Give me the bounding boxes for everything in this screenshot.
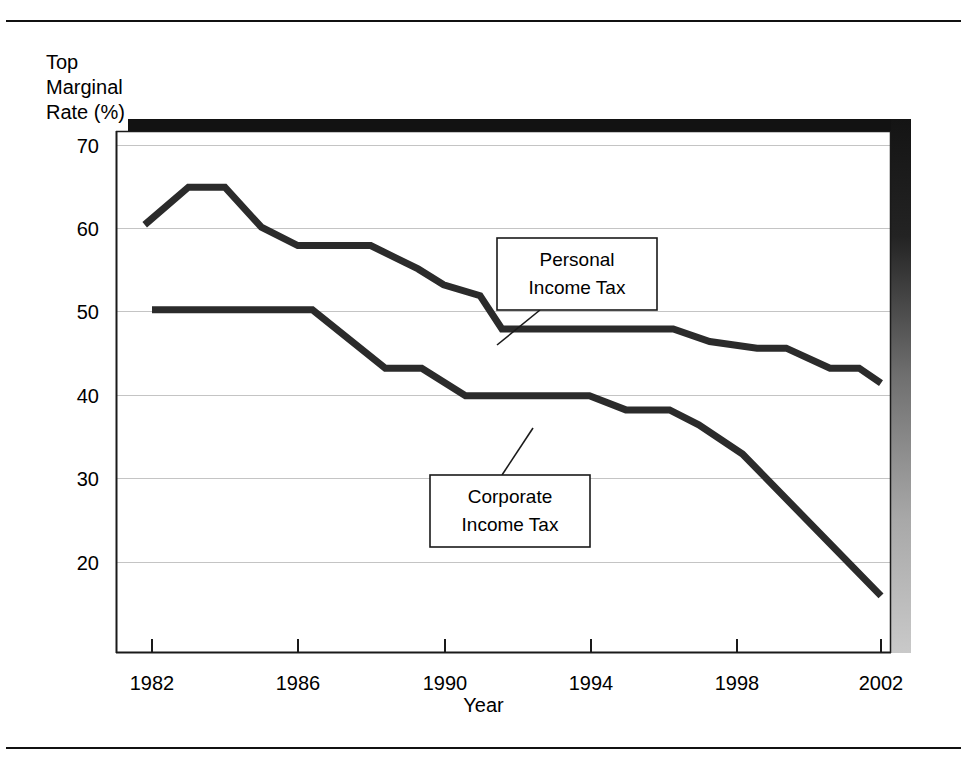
figure-page: Top Marginal Rate (%) [0,0,967,761]
annotation-label-personal-line2: Income Tax [529,277,626,298]
chart-figure: Top Marginal Rate (%) [0,22,967,746]
y-tick-label: 70 [77,135,99,157]
x-tick-label: 1986 [276,672,321,694]
y-tick-label: 50 [77,301,99,323]
y-tick-label: 20 [77,552,99,574]
plot-background [116,131,891,653]
x-axis-title: Year [0,694,967,717]
x-tick-labels: 1982 1986 1990 1994 1998 2002 [130,672,904,694]
annotation-label-corporate-line1: Corporate [468,486,553,507]
annotation-label-personal-line1: Personal [540,249,615,270]
x-tick-label: 1994 [569,672,614,694]
x-tick-label: 1998 [715,672,760,694]
x-tick-label: 1990 [423,672,468,694]
y-tick-label: 60 [77,218,99,240]
y-tick-label: 30 [77,468,99,490]
line-chart: 70 60 50 40 30 20 1982 1986 1990 1994 19… [0,22,967,746]
y-tick-label: 40 [77,385,99,407]
x-tick-label: 2002 [859,672,904,694]
bottom-rule [6,747,961,749]
x-tick-label: 1982 [130,672,175,694]
y-tick-labels: 70 60 50 40 30 20 [77,135,99,574]
annotation-label-corporate-line2: Income Tax [462,514,559,535]
